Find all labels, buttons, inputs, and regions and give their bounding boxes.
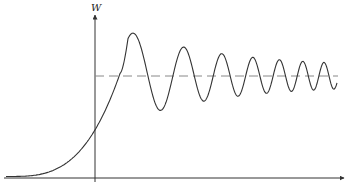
y-axis-label: W — [91, 2, 102, 13]
response-curve — [6, 33, 337, 176]
diagram-canvas: W — [0, 0, 347, 184]
